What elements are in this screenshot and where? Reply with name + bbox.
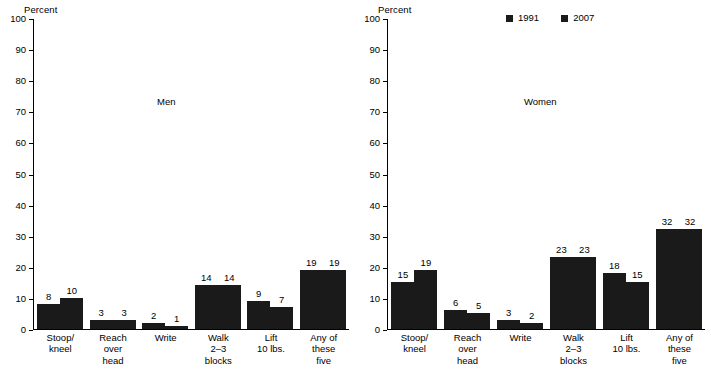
bar-group: 1414 bbox=[195, 19, 241, 329]
bar-value-label: 23 bbox=[570, 245, 599, 255]
bar-value-label: 3 bbox=[110, 308, 139, 318]
y-tick-label: 50 bbox=[15, 170, 26, 180]
bar bbox=[679, 229, 702, 329]
y-tick bbox=[383, 143, 387, 144]
bar-value-label: 7 bbox=[267, 295, 296, 305]
category-label: Any of these five bbox=[297, 332, 350, 366]
x-axis-line-women bbox=[387, 329, 705, 330]
y-axis-title-women: Percent bbox=[378, 5, 411, 15]
bar bbox=[550, 257, 573, 329]
category-label: Any of these five bbox=[653, 332, 706, 366]
y-tick bbox=[383, 81, 387, 82]
y-tick-label: 10 bbox=[15, 294, 26, 304]
y-tick-label: 20 bbox=[15, 263, 26, 273]
bar bbox=[497, 320, 520, 329]
bar-group: 810 bbox=[37, 19, 83, 329]
bar-groups-women: 15196532232318153232 bbox=[388, 19, 705, 329]
y-tick-label: 0 bbox=[21, 325, 26, 335]
bar bbox=[90, 320, 113, 329]
y-tick-label: 10 bbox=[369, 294, 380, 304]
bar bbox=[300, 270, 323, 329]
y-tick-label: 100 bbox=[10, 14, 26, 24]
y-tick-label: 30 bbox=[369, 232, 380, 242]
category-label: Lift 10 lbs. bbox=[600, 332, 653, 355]
category-label: Lift 10 lbs. bbox=[245, 332, 298, 355]
y-tick-label: 70 bbox=[15, 107, 26, 117]
y-tick-label: 80 bbox=[15, 76, 26, 86]
bar-group: 3232 bbox=[656, 19, 702, 329]
category-label: Walk 2–3 blocks bbox=[192, 332, 245, 366]
bar-group: 1919 bbox=[300, 19, 346, 329]
y-tick bbox=[29, 143, 33, 144]
bar-value-label: 32 bbox=[676, 217, 705, 227]
bar-group: 2323 bbox=[550, 19, 596, 329]
bar-group: 1519 bbox=[391, 19, 437, 329]
y-tick-label: 90 bbox=[15, 45, 26, 55]
bar bbox=[270, 307, 293, 329]
y-tick bbox=[383, 330, 387, 331]
category-label: Stoop/ kneel bbox=[388, 332, 441, 355]
bar-groups-men: 81033211414971919 bbox=[34, 19, 349, 329]
bar bbox=[165, 326, 188, 329]
plot-area-men: 0102030405060708090100 81033211414971919 bbox=[33, 19, 349, 330]
bar bbox=[218, 285, 241, 329]
bar-value-label: 15 bbox=[623, 270, 652, 280]
y-tick-label: 80 bbox=[369, 76, 380, 86]
bar-value-label: 15 bbox=[388, 270, 417, 280]
y-tick-label: 40 bbox=[369, 201, 380, 211]
y-tick bbox=[383, 175, 387, 176]
y-axis-title-men: Percent bbox=[24, 5, 57, 15]
y-tick-label: 70 bbox=[369, 107, 380, 117]
y-tick bbox=[29, 19, 33, 20]
category-label: Stoop/ kneel bbox=[34, 332, 87, 355]
y-tick-label: 0 bbox=[375, 325, 380, 335]
category-label: Reach over head bbox=[441, 332, 494, 366]
category-label: Write bbox=[494, 332, 547, 343]
y-tick bbox=[29, 81, 33, 82]
y-tick-label: 50 bbox=[369, 170, 380, 180]
bar bbox=[391, 282, 414, 329]
plot-area-women: 0102030405060708090100 15196532232318153… bbox=[387, 19, 705, 330]
y-tick bbox=[383, 237, 387, 238]
bar bbox=[656, 229, 679, 329]
category-label: Reach over head bbox=[87, 332, 140, 366]
y-tick bbox=[383, 50, 387, 51]
y-tick bbox=[29, 112, 33, 113]
bar bbox=[573, 257, 596, 329]
bar bbox=[520, 323, 543, 329]
bar-value-label: 2 bbox=[517, 311, 546, 321]
bar-group: 1815 bbox=[603, 19, 649, 329]
y-tick-label: 60 bbox=[369, 138, 380, 148]
bar bbox=[37, 304, 60, 329]
category-label: Write bbox=[139, 332, 192, 343]
bar bbox=[444, 310, 467, 329]
bar-group: 97 bbox=[247, 19, 293, 329]
bar-value-label: 14 bbox=[215, 273, 244, 283]
y-tick bbox=[29, 299, 33, 300]
bar bbox=[323, 270, 346, 329]
panel-women: Percent 19912007 Women 01020304050607080… bbox=[356, 0, 711, 374]
y-tick bbox=[383, 299, 387, 300]
category-label: Walk 2–3 blocks bbox=[547, 332, 600, 366]
y-tick bbox=[29, 237, 33, 238]
y-tick bbox=[383, 206, 387, 207]
bar-value-label: 19 bbox=[411, 258, 440, 268]
x-axis-line-men bbox=[33, 329, 349, 330]
bar bbox=[626, 282, 649, 329]
bar-group: 32 bbox=[497, 19, 543, 329]
y-tick bbox=[383, 112, 387, 113]
y-tick bbox=[29, 330, 33, 331]
bar bbox=[467, 313, 490, 329]
y-tick bbox=[29, 50, 33, 51]
y-tick bbox=[383, 268, 387, 269]
bar-group: 21 bbox=[142, 19, 188, 329]
y-tick bbox=[29, 268, 33, 269]
bar bbox=[195, 285, 218, 329]
y-tick-label: 100 bbox=[364, 14, 380, 24]
y-tick-label: 20 bbox=[369, 263, 380, 273]
bar-value-label: 5 bbox=[464, 301, 493, 311]
category-labels-women: Stoop/ kneelReach over headWriteWalk 2–3… bbox=[388, 332, 706, 374]
y-tick-label: 40 bbox=[15, 201, 26, 211]
figure: Percent Men 0102030405060708090100 81033… bbox=[0, 0, 711, 374]
bar bbox=[113, 320, 136, 329]
